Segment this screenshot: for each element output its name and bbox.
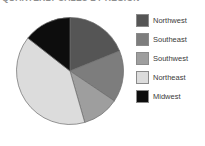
legend-swatch-southwest: [136, 52, 149, 65]
legend-item-southwest[interactable]: Southwest: [136, 49, 204, 68]
legend-swatch-midwest: [136, 90, 149, 103]
legend-label: Midwest: [153, 93, 181, 101]
legend-item-southeast[interactable]: Southeast: [136, 30, 204, 49]
legend-label: Northwest: [153, 17, 187, 25]
pie-chart-figure: QUARTERLY SALES BY REGION NorthwestSouth…: [0, 0, 205, 146]
chart-legend: NorthwestSoutheastSouthwestNortheastMidw…: [136, 11, 204, 106]
legend-item-midwest[interactable]: Midwest: [136, 87, 204, 106]
pie-slice-group: [16, 18, 123, 125]
legend-label: Northeast: [153, 74, 186, 82]
legend-item-northeast[interactable]: Northeast: [136, 68, 204, 87]
legend-item-northwest[interactable]: Northwest: [136, 11, 204, 30]
pie-svg: [15, 16, 125, 126]
chart-title: QUARTERLY SALES BY REGION: [2, 0, 162, 3]
legend-label: Southeast: [153, 36, 187, 44]
legend-swatch-southeast: [136, 33, 149, 46]
legend-swatch-northwest: [136, 14, 149, 27]
legend-swatch-northeast: [136, 71, 149, 84]
legend-label: Southwest: [153, 55, 188, 63]
pie-chart-plot-area: [15, 16, 125, 126]
